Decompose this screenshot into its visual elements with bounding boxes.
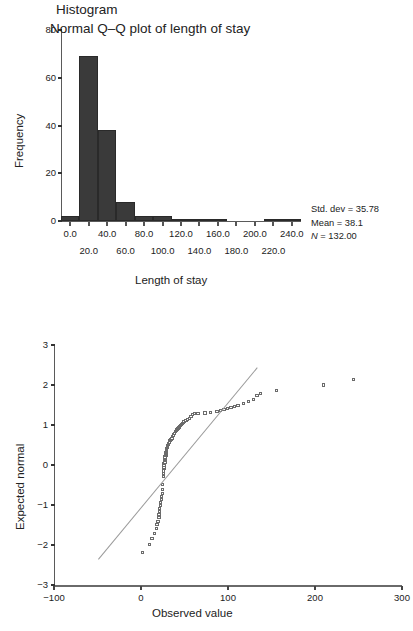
qq-point <box>259 392 262 395</box>
qq-point <box>352 378 355 381</box>
histogram-x-tick-mark <box>162 222 164 226</box>
qq-point <box>242 402 245 405</box>
qq-point <box>155 527 158 530</box>
qq-point <box>160 498 163 501</box>
qq-point <box>157 516 160 519</box>
histogram-x-tick-label: 40.0 <box>87 228 127 239</box>
histogram-x-tick-mark <box>235 222 237 226</box>
qq-x-tick-label: 100 <box>208 592 248 603</box>
qq-y-tick-mark <box>51 464 55 466</box>
histogram-y-tick-label: 40 <box>26 120 56 131</box>
histogram-x-tick-mark <box>125 222 127 226</box>
qq-point <box>236 404 239 407</box>
histogram-bar <box>61 216 79 221</box>
histogram-x-tick-label: 240.0 <box>272 228 312 239</box>
qq-y-tick-label: −1 <box>22 499 48 510</box>
sample-size-text: N = 132.00 <box>311 230 379 244</box>
histogram-bar <box>116 202 134 221</box>
histogram-x-tick-label: 60.0 <box>106 245 146 256</box>
qq-x-tick-mark <box>140 586 142 590</box>
histogram-x-tick-mark <box>143 222 145 226</box>
histogram-y-tick-mark <box>58 125 62 127</box>
histogram-x-tick-mark <box>291 222 293 226</box>
histogram-panel: Histogram Frequency 020406080 0.040.080.… <box>0 0 413 300</box>
histogram-x-tick-label: 20.0 <box>69 245 109 256</box>
qq-point <box>209 411 212 414</box>
qq-x-axis-title: Observed value <box>152 607 233 619</box>
qq-point <box>203 411 206 414</box>
qq-point <box>148 543 151 546</box>
qq-y-tick-label: 0 <box>22 459 48 470</box>
qq-plot-title: Normal Q–Q plot of length of stay <box>50 21 250 36</box>
histogram-bar <box>135 216 153 221</box>
histogram-x-axis-title: Length of stay <box>135 274 207 286</box>
mean-text: Mean = 38.1 <box>311 217 379 231</box>
histogram-y-tick-mark <box>58 77 62 79</box>
qq-y-tick-label: −3 <box>22 579 48 590</box>
histogram-x-tick-mark <box>69 222 71 226</box>
histogram-bar <box>283 219 301 221</box>
histogram-x-tick-mark <box>198 222 200 226</box>
qq-x-tick-mark <box>401 586 403 590</box>
qq-point <box>156 520 159 523</box>
qq-x-tick-mark <box>227 586 229 590</box>
qq-point <box>150 537 153 540</box>
n-value: = 132.00 <box>318 231 357 241</box>
qq-y-tick-mark <box>51 384 55 386</box>
histogram-x-tick-mark <box>272 222 274 226</box>
qq-point <box>196 412 199 415</box>
histogram-bar <box>190 219 208 221</box>
qq-x-tick-label: 300 <box>382 592 413 603</box>
qq-y-tick-label: −2 <box>22 539 48 550</box>
qq-point <box>153 532 156 535</box>
histogram-bar <box>98 130 116 221</box>
histogram-x-tick-label: 220.0 <box>253 245 293 256</box>
qq-point <box>160 495 163 498</box>
histogram-y-tick-label: 60 <box>26 72 56 83</box>
histogram-bar <box>172 219 190 221</box>
histogram-bar <box>153 216 171 221</box>
histogram-title: Histogram <box>56 2 118 17</box>
histogram-bar <box>79 56 97 221</box>
qq-x-tick-mark <box>53 586 55 590</box>
qq-point <box>161 492 164 495</box>
qq-x-tick-label: 200 <box>295 592 335 603</box>
qq-point <box>247 400 250 403</box>
histogram-statistics-block: Std. dev = 35.78 Mean = 38.1 N = 132.00 <box>311 203 379 244</box>
histogram-y-tick-mark <box>58 172 62 174</box>
qq-y-tick-mark <box>51 424 55 426</box>
qq-y-tick-mark <box>51 344 55 346</box>
histogram-y-tick-label: 0 <box>26 215 56 226</box>
histogram-x-tick-label: 100.0 <box>143 245 183 256</box>
qq-x-tick-label: 0 <box>121 592 161 603</box>
histogram-x-tick-label: 80.0 <box>124 228 164 239</box>
histogram-x-tick-label: 200.0 <box>235 228 275 239</box>
qq-y-tick-mark <box>51 544 55 546</box>
histogram-x-tick-mark <box>254 222 256 226</box>
n-symbol: N <box>311 231 318 241</box>
qq-y-tick-label: 3 <box>22 339 48 350</box>
histogram-bar <box>209 219 227 221</box>
qq-point <box>158 507 161 510</box>
qq-x-tick-mark <box>314 586 316 590</box>
qq-point <box>158 510 161 513</box>
qq-y-tick-label: 1 <box>22 419 48 430</box>
histogram-x-tick-label: 0.0 <box>50 228 90 239</box>
qq-point <box>161 488 164 491</box>
qq-point <box>322 383 325 386</box>
histogram-y-tick-label: 20 <box>26 167 56 178</box>
qq-x-tick-label: −100 <box>34 592 74 603</box>
histogram-x-tick-label: 180.0 <box>216 245 256 256</box>
qq-plot-panel <box>0 300 413 631</box>
qq-y-tick-mark <box>51 504 55 506</box>
qq-point <box>155 523 158 526</box>
qq-point <box>252 398 255 401</box>
qq-y-axis-title: Expected normal <box>14 444 26 530</box>
std-dev-text: Std. dev = 35.78 <box>311 203 379 217</box>
histogram-x-tick-mark <box>217 222 219 226</box>
histogram-x-tick-label: 140.0 <box>179 245 219 256</box>
qq-point <box>275 389 278 392</box>
histogram-bar <box>264 219 282 221</box>
histogram-y-axis-title: Frequency <box>13 114 25 168</box>
histogram-x-tick-label: 160.0 <box>198 228 238 239</box>
